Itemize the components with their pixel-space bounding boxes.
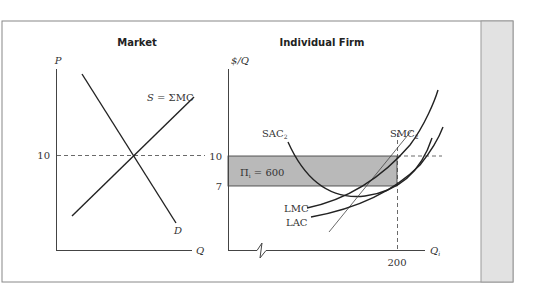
- firm-tick-200: 200: [387, 257, 406, 268]
- supply-label: S = ΣMC: [147, 92, 194, 103]
- firm-tick-7: 7: [216, 181, 222, 192]
- profit-label: Πi = 600: [240, 167, 284, 179]
- demand-label: D: [173, 225, 182, 236]
- figure-frame: [2, 21, 513, 282]
- side-panel: [481, 21, 513, 282]
- market-title: Market: [117, 37, 157, 48]
- firm-tick-10: 10: [209, 151, 222, 162]
- firm-y-label: $/Q: [231, 55, 249, 66]
- firm-title: Individual Firm: [280, 37, 365, 48]
- market-y-label: P: [54, 55, 62, 66]
- smc2-label: SMC2: [390, 128, 419, 140]
- market-x-label: Q: [196, 245, 204, 256]
- figure: Market P Q 10 S = ΣMC D Individual Firm …: [0, 0, 540, 297]
- lac-label: LAC: [286, 217, 308, 228]
- market-tick-10: 10: [37, 150, 50, 161]
- lmc-label: LMC: [284, 203, 309, 214]
